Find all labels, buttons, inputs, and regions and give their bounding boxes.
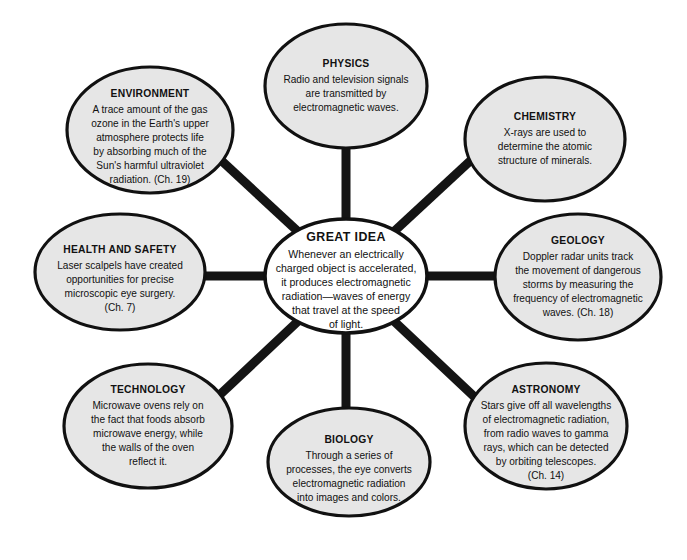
node-technology-line-4: reflect it.: [129, 456, 167, 467]
node-technology-line-1: the fact that foods absorb: [91, 414, 205, 425]
node-geology-title: GEOLOGY: [551, 235, 605, 246]
node-technology-line-0: Microwave ovens rely on: [92, 400, 203, 411]
node-environment-title: ENVIRONMENT: [111, 88, 190, 99]
node-great-idea-line-2: it produces electromagnetic: [281, 276, 411, 288]
concept-web-canvas: PHYSICS Radio and television signals are…: [0, 0, 687, 560]
node-health-and-safety-line-2: microscopic eye surgery.: [65, 288, 176, 299]
node-astronomy[interactable]: ASTRONOMY Stars give off all wavelengths…: [465, 363, 627, 489]
node-physics[interactable]: PHYSICS Radio and television signals are…: [265, 24, 427, 148]
node-technology-line-2: microwave energy, while: [93, 428, 203, 439]
node-great-idea-line-1: charged object is accelerated,: [276, 262, 417, 274]
node-health-and-safety-line-1: opportunities for precise: [66, 274, 174, 285]
node-physics-title: PHYSICS: [323, 58, 370, 69]
node-biology-title: BIOLOGY: [324, 434, 373, 445]
node-astronomy-line-0: Stars give off all wavelengths: [481, 400, 612, 411]
node-biology-line-1: processes, the eye converts: [286, 464, 412, 475]
node-health-and-safety-line-3: (Ch. 7): [105, 302, 136, 313]
node-chemistry-line-0: X-rays are used to: [504, 127, 587, 138]
node-geology-line-3: frequency of electromagnetic: [513, 293, 643, 304]
node-geology-line-1: the movement of dangerous: [515, 265, 641, 276]
node-great-idea[interactable]: GREAT IDEA Whenever an electrically char…: [265, 219, 427, 333]
node-astronomy-line-2: from radio waves to gamma: [484, 428, 609, 439]
node-chemistry-ellipse: [465, 77, 625, 201]
node-physics-line-0: Radio and television signals: [283, 74, 408, 85]
node-environment-line-4: Sun's harmful ultraviolet: [96, 160, 204, 171]
node-technology-ellipse: [64, 364, 232, 488]
node-great-idea-title: GREAT IDEA: [306, 230, 386, 244]
node-great-idea-line-5: of light.: [329, 318, 363, 330]
node-environment[interactable]: ENVIRONMENT A trace amount of the gas oz…: [67, 67, 233, 193]
concept-web-diagram: PHYSICS Radio and television signals are…: [0, 0, 687, 560]
node-chemistry[interactable]: CHEMISTRY X-rays are used to determine t…: [465, 77, 625, 201]
node-geology-line-2: storms by measuring the: [523, 279, 634, 290]
node-great-idea-line-3: radiation—waves of energy: [282, 290, 411, 302]
node-biology-line-3: into images and colors.: [297, 492, 401, 503]
node-health-and-safety-title: HEALTH AND SAFETY: [63, 244, 177, 255]
node-environment-line-3: by absorbing much of the: [93, 146, 207, 157]
node-technology-line-3: the walls of the oven: [102, 442, 194, 453]
node-geology-line-0: Doppler radar units track: [523, 251, 634, 262]
node-health-and-safety-line-0: Laser scalpels have created: [57, 260, 183, 271]
node-chemistry-line-1: determine the atomic: [498, 141, 592, 152]
node-technology-title: TECHNOLOGY: [110, 384, 185, 395]
node-astronomy-line-1: of electromagnetic radiation,: [483, 414, 610, 425]
node-physics-ellipse: [265, 24, 427, 148]
node-chemistry-title: CHEMISTRY: [514, 111, 577, 122]
node-environment-line-5: radiation. (Ch. 19): [110, 174, 191, 185]
node-astronomy-title: ASTRONOMY: [511, 384, 580, 395]
node-astronomy-line-3: rays, which can be detected: [483, 442, 608, 453]
node-health-and-safety[interactable]: HEALTH AND SAFETY Laser scalpels have cr…: [35, 214, 205, 330]
node-physics-line-2: electromagnetic waves.: [293, 102, 398, 113]
node-great-idea-line-0: Whenever an electrically: [288, 248, 404, 260]
node-environment-line-0: A trace amount of the gas: [92, 104, 207, 115]
node-biology-line-0: Through a series of: [306, 450, 393, 461]
node-geology-ellipse: [495, 214, 661, 340]
node-biology[interactable]: BIOLOGY Through a series of processes, t…: [268, 408, 430, 516]
node-physics-line-1: are transmitted by: [306, 88, 388, 99]
node-astronomy-line-5: (Ch. 14): [528, 470, 564, 481]
node-biology-line-2: electromagnetic radiation: [293, 478, 406, 489]
node-technology[interactable]: TECHNOLOGY Microwave ovens rely on the f…: [64, 364, 232, 488]
node-environment-line-1: ozone in the Earth's upper: [91, 118, 209, 129]
node-geology[interactable]: GEOLOGY Doppler radar units track the mo…: [495, 214, 661, 340]
node-great-idea-line-4: that travel at the speed: [292, 304, 400, 316]
node-astronomy-line-4: by orbiting telescopes.: [496, 456, 596, 467]
node-environment-line-2: atmosphere protects life: [96, 132, 204, 143]
node-chemistry-line-2: structure of minerals.: [498, 155, 592, 166]
node-geology-line-4: waves. (Ch. 18): [542, 307, 614, 318]
